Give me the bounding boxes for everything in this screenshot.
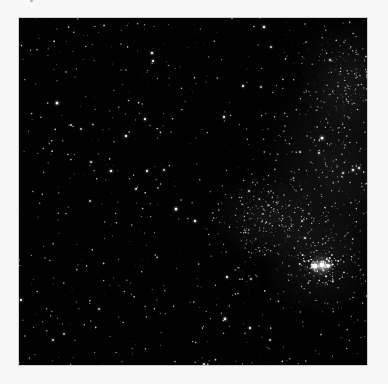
milky-way-glow xyxy=(211,20,368,316)
image-canvas: Star field with dense star cloud and bri… xyxy=(0,0,388,384)
star-field-image xyxy=(19,18,367,365)
star-field-canvas xyxy=(19,18,367,365)
scan-artifact-mark xyxy=(30,0,33,2)
